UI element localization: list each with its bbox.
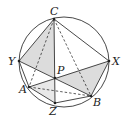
shaded-triangle-apz xyxy=(29,78,55,103)
label-p: P xyxy=(56,64,65,77)
label-b: B xyxy=(92,96,101,109)
label-a: A xyxy=(18,83,27,96)
label-y: Y xyxy=(8,55,17,68)
label-c: C xyxy=(50,5,59,18)
shaded-triangle-cyp xyxy=(19,19,55,78)
geometry-diagram: C Y X P A B Z xyxy=(0,0,128,117)
label-z: Z xyxy=(48,105,57,117)
label-x: X xyxy=(111,55,121,68)
